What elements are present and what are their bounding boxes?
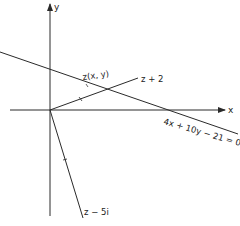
- point-z-label: z(x, y): [82, 68, 110, 82]
- vector-z-minus-5i-label: z − 5i: [84, 207, 109, 217]
- point-z-tick: [86, 84, 88, 87]
- diagram-canvas: y x 4x + 10y − 21 = 0 z + 2 z(x, y) z − …: [0, 0, 240, 226]
- complex-plane-diagram: y x 4x + 10y − 21 = 0 z + 2 z(x, y) z − …: [0, 0, 240, 226]
- vector-z-plus-2-label: z + 2: [141, 74, 163, 84]
- vector-z-plus-2: [50, 78, 138, 110]
- tick-mark-z-minus-5i: [63, 159, 67, 160]
- line-4x-10y-21: [0, 52, 238, 134]
- y-axis-label: y: [54, 2, 60, 12]
- x-axis-label: x: [228, 105, 234, 115]
- vector-z-minus-5i: [50, 110, 83, 218]
